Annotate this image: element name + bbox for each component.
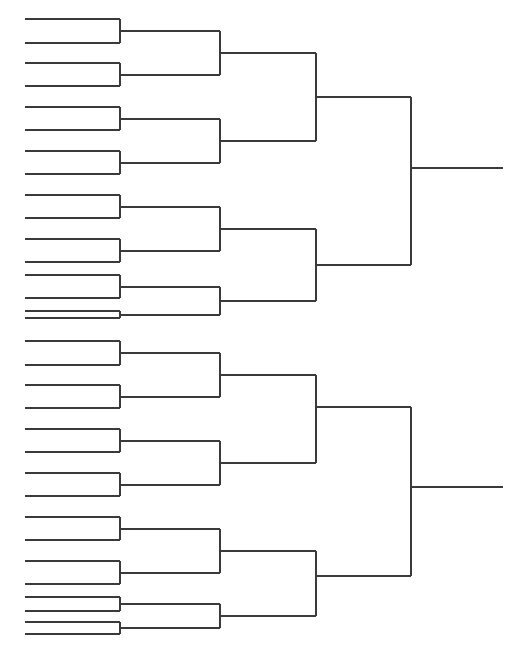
bracket-background (0, 0, 522, 658)
bracket-diagram (0, 0, 522, 658)
bracket-container (0, 0, 522, 658)
